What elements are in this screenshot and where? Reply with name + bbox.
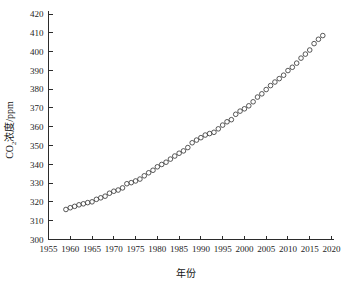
y-tick-label: 310 <box>30 216 44 226</box>
data-point <box>129 180 134 185</box>
data-point <box>251 99 256 104</box>
data-point <box>268 83 273 88</box>
data-point <box>138 177 143 182</box>
data-point <box>172 154 177 159</box>
data-point <box>307 48 312 53</box>
x-tick-label: 1985 <box>170 244 189 254</box>
y-tick-label: 380 <box>30 84 44 94</box>
data-point <box>94 197 99 202</box>
data-point <box>199 135 204 140</box>
data-point <box>77 203 82 208</box>
x-tick-label: 1960 <box>61 244 80 254</box>
y-axis-title-rest: 浓度/ppm <box>3 101 15 142</box>
data-point <box>203 133 208 138</box>
data-point <box>299 56 304 61</box>
data-series-co2 <box>64 33 325 212</box>
data-point <box>316 37 321 42</box>
data-point <box>159 162 164 167</box>
data-point <box>294 61 299 66</box>
y-axis: 300310320330340350360370380390400410420 <box>30 9 53 245</box>
data-point <box>255 95 260 100</box>
data-point <box>146 170 151 175</box>
x-tick-label: 2000 <box>235 244 254 254</box>
data-point <box>168 157 173 162</box>
data-point <box>116 188 121 193</box>
data-point <box>190 140 195 145</box>
data-point <box>98 196 103 201</box>
y-tick-label: 370 <box>30 103 44 113</box>
data-point <box>85 200 90 205</box>
data-point <box>155 165 160 170</box>
y-tick-label: 410 <box>30 28 44 38</box>
x-tick-label: 1975 <box>127 244 146 254</box>
y-tick-label: 320 <box>30 197 44 207</box>
data-point <box>125 181 130 186</box>
x-tick-label: 1995 <box>214 244 233 254</box>
data-point <box>290 65 295 70</box>
x-tick-label: 1970 <box>105 244 124 254</box>
y-tick-label: 400 <box>30 47 44 57</box>
data-point <box>242 107 247 112</box>
data-point <box>312 41 317 46</box>
data-point <box>320 33 325 38</box>
y-axis-title-text: CO2浓度/ppm <box>3 101 17 159</box>
data-point <box>186 145 191 150</box>
data-point <box>220 123 225 128</box>
data-point <box>264 87 269 92</box>
x-tick-label: 2010 <box>279 244 298 254</box>
y-axis-title: CO2浓度/ppm <box>3 101 17 159</box>
y-tick-label: 390 <box>30 66 44 76</box>
data-point <box>120 186 125 191</box>
data-point <box>142 174 147 179</box>
data-point <box>151 168 156 173</box>
x-tick-label: 2005 <box>257 244 276 254</box>
data-point <box>103 194 108 199</box>
data-point <box>286 68 291 73</box>
x-axis-title: 年份 <box>176 267 196 279</box>
y-axis-title-main: CO <box>4 145 15 159</box>
data-point <box>212 130 217 135</box>
data-point <box>72 204 77 209</box>
data-point <box>277 76 282 81</box>
data-point <box>107 191 112 196</box>
data-point <box>233 112 238 117</box>
chart-svg: 300310320330340350360370380390400410420 … <box>0 0 344 290</box>
data-point <box>112 189 117 194</box>
data-point <box>216 127 221 132</box>
data-point <box>229 117 234 122</box>
data-point <box>68 205 73 210</box>
data-point <box>177 151 182 156</box>
y-tick-label: 340 <box>30 160 44 170</box>
x-tick-label: 1980 <box>148 244 167 254</box>
data-point <box>207 131 212 136</box>
data-point <box>303 52 308 57</box>
data-point <box>246 104 251 109</box>
y-tick-label: 360 <box>30 122 44 132</box>
x-tick-label: 1965 <box>83 244 102 254</box>
data-point <box>164 160 169 165</box>
x-tick-label: 2015 <box>301 244 320 254</box>
data-point <box>225 119 230 124</box>
x-tick-label: 1955 <box>40 244 59 254</box>
data-point <box>90 200 95 205</box>
data-point <box>181 149 186 154</box>
data-point <box>260 92 265 97</box>
y-tick-label: 420 <box>30 9 44 19</box>
data-point <box>81 202 86 207</box>
data-point <box>64 207 69 212</box>
data-point <box>273 80 278 85</box>
data-point <box>194 138 199 143</box>
x-axis: 1955196019651970197519801985199019952000… <box>40 236 342 254</box>
y-tick-label: 350 <box>30 141 44 151</box>
data-point <box>133 179 138 184</box>
co2-concentration-chart: 300310320330340350360370380390400410420 … <box>0 0 344 290</box>
data-point <box>281 73 286 78</box>
y-tick-label: 330 <box>30 178 44 188</box>
x-tick-label: 1990 <box>192 244 211 254</box>
data-point <box>238 109 243 114</box>
x-tick-label: 2020 <box>323 244 342 254</box>
